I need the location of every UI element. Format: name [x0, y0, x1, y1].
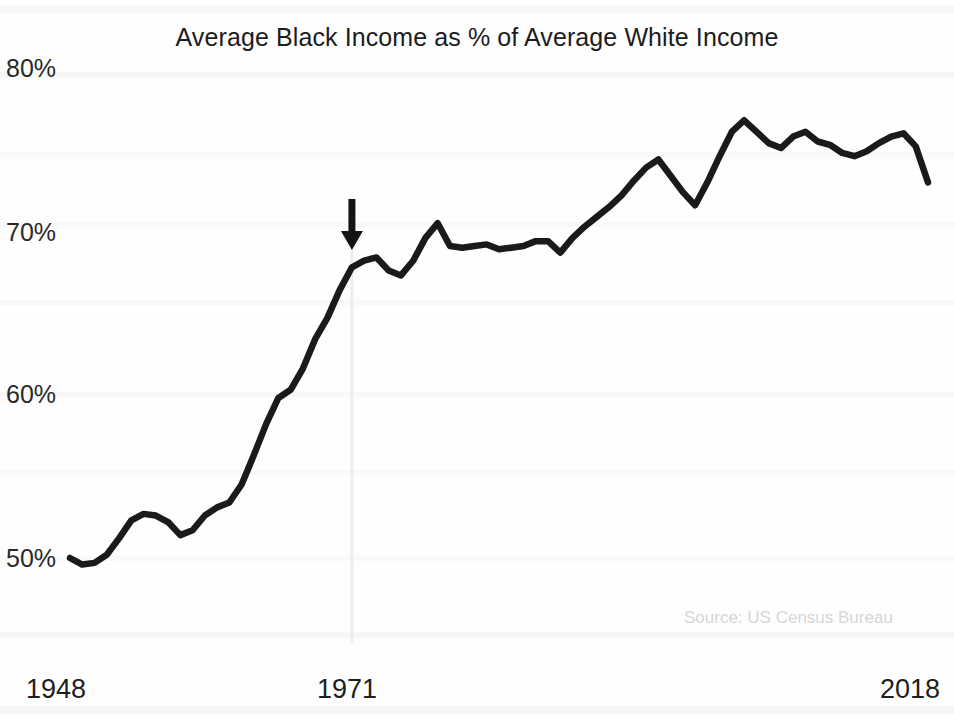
- chart-figure: Average Black Income as % of Average Whi…: [0, 0, 954, 717]
- income-ratio-line: [70, 120, 928, 564]
- plot-area: [0, 0, 954, 717]
- year-1971-arrow-icon: [341, 199, 363, 250]
